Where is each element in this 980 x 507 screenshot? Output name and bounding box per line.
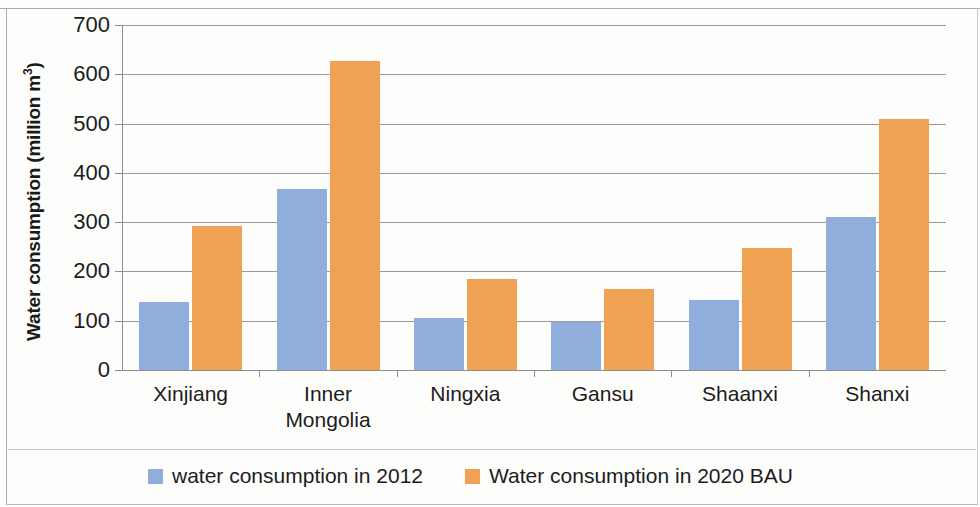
- y-tick-mark: [115, 271, 122, 272]
- y-tick-label: 200: [73, 258, 110, 284]
- bar: [742, 248, 792, 370]
- x-axis-label: InnerMongolia: [259, 381, 396, 434]
- y-tick-label: 100: [73, 308, 110, 334]
- y-tick-mark: [115, 222, 122, 223]
- bar: [192, 226, 242, 370]
- legend-swatch-icon: [148, 469, 163, 484]
- x-axis-label-line: Shanxi: [809, 381, 946, 407]
- y-axis-title-text: Water consumption (million m: [23, 75, 44, 341]
- x-axis-label: Shaanxi: [671, 381, 808, 407]
- x-axis-category-labels: XinjiangInnerMongoliaNingxiaGansuShaanxi…: [122, 381, 946, 451]
- bar-series-container: [122, 25, 946, 370]
- bar: [879, 119, 929, 370]
- y-tick-mark: [115, 173, 122, 174]
- y-tick-mark: [115, 74, 122, 75]
- y-tick-mark: [115, 370, 122, 371]
- x-axis-label-line: Inner: [259, 381, 396, 407]
- legend-separator: [8, 449, 976, 450]
- x-axis-label-line: Gansu: [534, 381, 671, 407]
- y-axis-title-suffix: ): [23, 62, 44, 68]
- legend-item[interactable]: Water consumption in 2020 BAU: [465, 464, 793, 488]
- y-tick-mark: [115, 321, 122, 322]
- figure-border-bottom: [6, 504, 978, 505]
- y-axis-title: Water consumption (million m3): [21, 17, 44, 387]
- bar: [330, 61, 380, 370]
- x-axis-label-line: Xinjiang: [122, 381, 259, 407]
- y-tick-label: 0: [98, 357, 110, 383]
- x-axis-separator: [397, 370, 398, 377]
- x-axis-label: Gansu: [534, 381, 671, 407]
- x-axis-label-line: Ningxia: [397, 381, 534, 407]
- figure-border-top: [0, 8, 980, 9]
- y-tick-label: 500: [73, 111, 110, 137]
- x-axis-label: Shanxi: [809, 381, 946, 407]
- figure-border-right: [977, 8, 978, 505]
- x-axis-separator: [809, 370, 810, 377]
- y-tick-label: 400: [73, 160, 110, 186]
- legend-label: Water consumption in 2020 BAU: [489, 464, 793, 488]
- bar: [551, 322, 601, 370]
- bar: [689, 300, 739, 370]
- bar-chart-figure: Water consumption (million m3) 010020030…: [0, 0, 980, 507]
- x-axis-label-line: Mongolia: [259, 407, 396, 433]
- legend-swatch-icon: [465, 469, 480, 484]
- x-axis-label: Xinjiang: [122, 381, 259, 407]
- bar: [826, 217, 876, 370]
- x-axis-separator: [671, 370, 672, 377]
- legend-item[interactable]: water consumption in 2012: [148, 464, 423, 488]
- y-axis-title-superscript: 3: [21, 68, 35, 74]
- y-tick-label: 600: [73, 61, 110, 87]
- bar: [467, 279, 517, 370]
- x-axis-label-line: Shaanxi: [671, 381, 808, 407]
- bar: [414, 318, 464, 370]
- y-tick-mark: [115, 25, 122, 26]
- figure-border-left: [6, 8, 7, 505]
- y-tick-label: 300: [73, 209, 110, 235]
- bar: [604, 289, 654, 370]
- y-tick-label: 700: [73, 12, 110, 38]
- x-axis-label: Ningxia: [397, 381, 534, 407]
- bar: [277, 189, 327, 370]
- chart-legend: water consumption in 2012Water consumpti…: [148, 464, 793, 488]
- x-axis-separator: [259, 370, 260, 377]
- plot-area: 0100200300400500600700: [122, 25, 946, 370]
- bar: [139, 302, 189, 370]
- y-tick-mark: [115, 124, 122, 125]
- x-axis-separator: [534, 370, 535, 377]
- legend-label: water consumption in 2012: [172, 464, 423, 488]
